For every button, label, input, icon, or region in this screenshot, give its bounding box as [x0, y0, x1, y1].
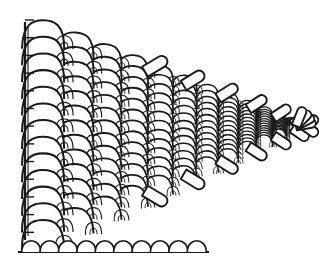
figure-root: Perspective line drawing of a scale-stit… [0, 0, 328, 263]
scale-fabric-diagram [0, 0, 328, 263]
